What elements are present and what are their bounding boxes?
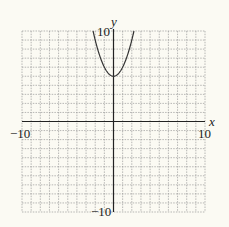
y-min-tick-label: −10 [91,204,111,219]
graph: −10 10 10 −10 x y [0,0,229,227]
x-axis-label: x [208,114,215,129]
x-min-tick-label: −10 [10,126,30,141]
y-max-tick-label: 10 [97,24,110,39]
y-axis-label: y [109,14,117,29]
